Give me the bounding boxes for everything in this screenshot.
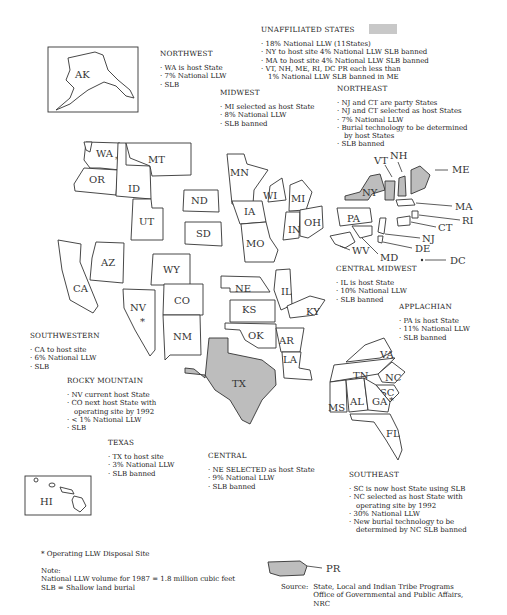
region-title: TEXAS (108, 438, 174, 447)
list-item: SLB banned (108, 470, 174, 478)
svg-text:ND: ND (191, 195, 208, 206)
svg-text:IA: IA (244, 206, 256, 217)
region-title: CENTRAL (208, 451, 315, 460)
list-item: PA is host State (399, 317, 470, 325)
list-item-continuation: determined by NC SLB banned (349, 526, 467, 534)
legend-operating-site: * Operating LLW Disposal Site (41, 550, 149, 558)
source-label: Source: (281, 583, 308, 608)
svg-text:MS: MS (328, 402, 345, 413)
list-item: 3% National LLW (108, 461, 174, 469)
svg-text:MA: MA (455, 201, 473, 212)
svg-text:IN: IN (288, 224, 301, 235)
region-title: APPLACHIAN (399, 302, 470, 311)
list-item: 9% National LLW (208, 474, 315, 482)
region-applachian: APPLACHIAN PA is host State 11% National… (399, 302, 470, 342)
svg-text:TX: TX (232, 378, 247, 389)
svg-text:NM: NM (173, 331, 192, 342)
state-mn (227, 154, 268, 204)
region-unaffiliated: UNAFFILIATED STATES 18% National LLW (11… (261, 24, 429, 81)
list-item-continuation: operating site by 1992 (67, 408, 156, 416)
svg-text:CO: CO (174, 295, 190, 306)
state-de (378, 236, 383, 243)
svg-text:*: * (140, 316, 145, 327)
list-item: SLB (30, 363, 100, 371)
note-slb: SLB = Shallow land burial (41, 584, 235, 592)
svg-text:NC: NC (385, 372, 402, 383)
svg-text:NH: NH (390, 150, 408, 161)
list-item: New burial technology to be (349, 518, 467, 526)
source-line-2: Office of Governmental and Public Affair… (313, 591, 463, 599)
svg-text:AR: AR (278, 335, 294, 346)
region-title: ROCKY MOUNTAIN (67, 376, 156, 385)
state-ri (412, 211, 418, 218)
list-item: IL is host State (336, 279, 417, 287)
state-ma (396, 199, 415, 206)
list-item-continuation: by host States (337, 132, 468, 140)
list-item: SC is now host State using SLB (349, 485, 467, 493)
list-item: SLB banned (399, 334, 470, 342)
svg-text:MN: MN (230, 167, 249, 178)
svg-text:MT: MT (148, 154, 165, 165)
region-texas: TEXAS TX to host site 3% National LLW SL… (108, 438, 174, 478)
unaffiliated-swatch (369, 24, 397, 34)
svg-text:MO: MO (246, 238, 264, 249)
list-item: SLB (67, 424, 156, 432)
svg-text:AL: AL (349, 396, 364, 407)
svg-text:WA: WA (96, 148, 114, 159)
region-midwest: MIDWEST MI selected as host State 8% Nat… (220, 88, 314, 128)
region-title: NORTHEAST (337, 84, 468, 93)
list-item: 7% National LLW (160, 72, 226, 80)
svg-text:CT: CT (438, 222, 453, 233)
region-title: MIDWEST (220, 88, 314, 97)
svg-text:WI: WI (263, 190, 277, 201)
list-item: 7% National LLW (337, 116, 468, 124)
list-item: NY to host site 4% National LLW SLB bann… (261, 48, 429, 56)
region-title: SOUTHEAST (349, 470, 467, 479)
list-item: 11% National LLW (399, 325, 470, 333)
list-item: MA to host site 4% National LLW SLB bann… (261, 57, 429, 65)
region-rocky-mountain: ROCKY MOUNTAIN NV current host State CO … (67, 376, 156, 432)
state-ct (397, 216, 410, 226)
state-md (352, 226, 372, 238)
svg-text:HI: HI (40, 496, 53, 507)
svg-text:SD: SD (196, 228, 211, 239)
svg-text:AK: AK (74, 69, 90, 80)
list-item: NC selected as host State with (349, 493, 467, 501)
svg-text:MI: MI (291, 193, 305, 204)
region-southeast: SOUTHEAST SC is now host State using SLB… (349, 470, 467, 535)
list-item: NE SELECTED as host State (208, 466, 315, 474)
state-dc (421, 259, 423, 261)
svg-text:FL: FL (386, 428, 400, 439)
list-item: SLB banned (220, 120, 314, 128)
state-nh (398, 176, 406, 196)
svg-text:KY: KY (306, 306, 320, 317)
list-item: TX to host site (108, 453, 174, 461)
list-item: WA is host State (160, 64, 226, 72)
state-vt (385, 181, 395, 200)
state-nj (378, 218, 386, 234)
list-item: Burial technology to be determined (337, 124, 468, 132)
list-item: MI selected as host State (220, 103, 314, 111)
list-item: VT, NH, ME, RI, DC PR each less than (261, 65, 429, 73)
list-item: 10% National LLW (336, 287, 417, 295)
list-item-continuation: operating site by 1992 (349, 502, 467, 510)
note-volume: National LLW volume for 1987 = 1.8 milli… (41, 575, 235, 583)
svg-text:UT: UT (139, 216, 154, 227)
list-item: 30% National LLW (349, 510, 467, 518)
state-me (411, 166, 430, 194)
svg-text:CA: CA (73, 283, 89, 294)
svg-text:IL: IL (281, 286, 292, 297)
source-citation: Source: State, Local and Indian Tribe Pr… (281, 583, 463, 608)
svg-text:KS: KS (242, 304, 256, 315)
region-northwest: NORTHWEST WA is host State 7% National L… (160, 49, 226, 89)
list-item: 18% National LLW (11States) (261, 40, 429, 48)
svg-text:NE: NE (235, 283, 251, 294)
list-item: 6% National LLW (30, 354, 100, 362)
svg-text:LA: LA (283, 354, 298, 365)
note-title: Note: (41, 567, 235, 575)
svg-text:GA: GA (372, 396, 388, 407)
svg-text:VT: VT (373, 155, 388, 166)
region-title: UNAFFILIATED STATES (261, 25, 355, 34)
source-line-3: NRC (313, 600, 463, 608)
svg-text:ME: ME (452, 164, 470, 175)
